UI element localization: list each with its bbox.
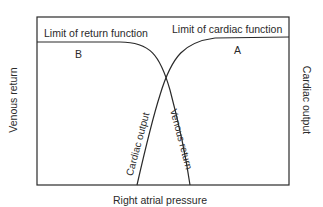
diagram-canvas: Limit of return function Limit of cardia… — [0, 0, 323, 207]
left-axis-label: Venous return — [7, 67, 19, 133]
point-a-label: A — [234, 44, 241, 56]
x-axis-label: Right atrial pressure — [113, 194, 207, 206]
limit-return-label: Limit of return function — [44, 27, 148, 39]
venous-return-curve-label: Venous return — [168, 108, 195, 171]
point-b-label: B — [75, 48, 82, 60]
limit-cardiac-label: Limit of cardiac function — [172, 23, 282, 35]
limit-cardiac-line — [215, 37, 289, 38]
right-axis-label: Cardiac output — [301, 66, 313, 134]
